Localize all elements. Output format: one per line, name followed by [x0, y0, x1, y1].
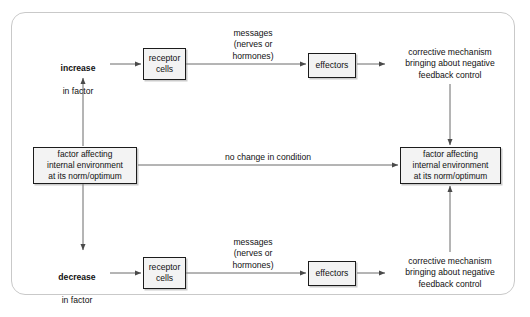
decrease-rest-text: in factor [42, 295, 112, 306]
receptor-cells-top-text: receptor cells [144, 53, 185, 75]
label-increase-in-factor: increase in factor [44, 52, 112, 108]
increase-rest-text: in factor [44, 86, 112, 97]
factor-target-text: factor affecting internal environment at… [401, 149, 500, 183]
node-effectors-bottom[interactable]: effectors [308, 261, 356, 286]
label-corrective-mechanism-bottom: corrective mechanism bringing about nega… [386, 256, 514, 290]
increase-bold-text: increase [44, 63, 112, 74]
node-factor-target[interactable]: factor affecting internal environment at… [400, 147, 501, 184]
node-receptor-cells-bottom[interactable]: receptor cells [143, 257, 186, 289]
label-messages-top: messages (nerves or hormones) [205, 28, 301, 62]
node-effectors-top[interactable]: effectors [308, 53, 356, 78]
label-decrease-in-factor: decrease in factor [42, 261, 112, 317]
label-corrective-mechanism-top: corrective mechanism bringing about nega… [386, 47, 514, 81]
factor-source-text: factor affecting internal environment at… [34, 149, 136, 183]
label-messages-bottom: messages (nerves or hormones) [205, 237, 301, 271]
decrease-bold-text: decrease [42, 272, 112, 283]
receptor-cells-bottom-text: receptor cells [144, 262, 185, 284]
node-factor-source[interactable]: factor affecting internal environment at… [33, 147, 137, 184]
node-receptor-cells-top[interactable]: receptor cells [143, 48, 186, 80]
diagram-canvas: increase in factor receptor cells messag… [0, 0, 530, 317]
label-no-change-in-condition: no change in condition [204, 152, 332, 163]
effectors-bottom-text: effectors [309, 268, 355, 279]
effectors-top-text: effectors [309, 60, 355, 71]
